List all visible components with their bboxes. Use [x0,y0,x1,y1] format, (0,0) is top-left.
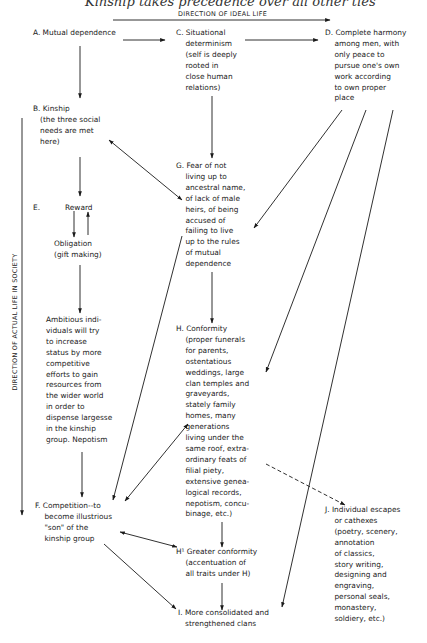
node-a: A. Mutual dependence [33,28,116,39]
edge-d-h [266,110,366,372]
node-e-ambition: Ambitious indi- viduals will try to incr… [46,315,112,446]
node-h: H. Conformity (proper funerals for paren… [176,324,249,520]
edge-b-g [109,140,182,200]
edge-f-i [104,544,176,609]
ideal-life-axis-label: DIRECTION OF IDEAL LIFE [178,10,267,18]
edge-h-j [266,464,345,505]
node-j: J. Individual escapes or cathexes (poetr… [325,505,400,625]
edge-g-f [113,236,182,500]
actual-life-axis-label: DIRECTION OF ACTUAL LIFE IN SOCIETY [11,232,19,412]
diagram-canvas: Kinship takes precedence over all other … [0,0,427,643]
node-h1: H¹ Greater conformity (accentuation of a… [176,547,257,580]
node-d: D. Complete harmony among men, with only… [325,28,406,104]
node-e-obligation: Obligation (gift making) [54,239,102,261]
node-g: G. Fear of not living up to ancestral na… [176,161,245,270]
node-e-label: E. [33,203,40,214]
node-i: I. More consolidated and strengthened cl… [178,608,269,630]
node-f: F. Competition--to become illustrious "s… [35,501,112,545]
edge-f-h1 [120,532,177,547]
node-c: C. Situational determinism (self is deep… [176,28,237,93]
node-e-reward: Reward [65,203,93,214]
edge-d-g [254,110,342,228]
node-b: B. Kinship (the three social needs are m… [33,104,100,148]
